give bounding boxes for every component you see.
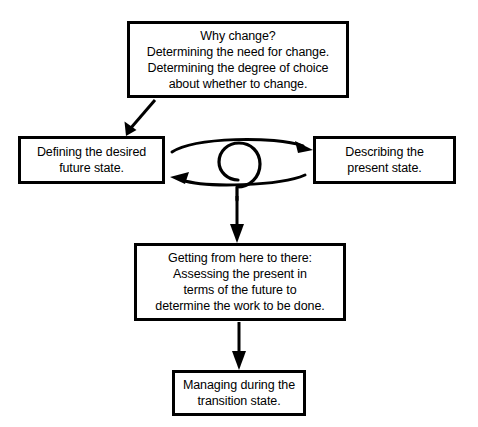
node-why-change: Why change? Determining the need for cha…	[127, 21, 349, 98]
node-describing-present-state: Describing the present state.	[313, 136, 456, 184]
connector-future-state-to-present-state	[172, 139, 313, 153]
node-defining-future-state-label: Defining the desired future state.	[25, 144, 158, 176]
connector-present-state-to-future-state	[170, 172, 305, 185]
spiral-icon	[219, 143, 260, 200]
node-why-change-label: Why change? Determining the need for cha…	[134, 28, 342, 92]
node-managing-transition-state: Managing during the transition state.	[172, 370, 306, 416]
connector-getting-there-to-transition	[232, 322, 246, 370]
node-defining-future-state: Defining the desired future state.	[18, 136, 165, 184]
connector-spiral-to-getting-there	[230, 196, 244, 243]
diagram-canvas: Why change? Determining the need for cha…	[0, 0, 478, 427]
node-describing-present-state-label: Describing the present state.	[320, 144, 449, 176]
node-getting-from-here-to-there: Getting from here to there: Assessing th…	[134, 243, 346, 321]
node-getting-from-here-to-there-label: Getting from here to there: Assessing th…	[141, 250, 339, 314]
connector-why-change-to-future-state	[125, 100, 156, 136]
node-managing-transition-state-label: Managing during the transition state.	[179, 377, 299, 409]
